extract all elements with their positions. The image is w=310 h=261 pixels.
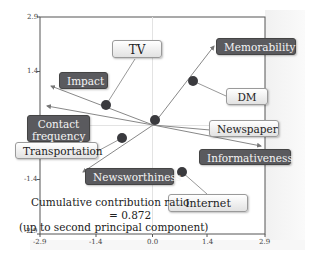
label-tv: TV [112, 40, 162, 58]
label-memorability: Memorability [216, 38, 296, 55]
label-dm: DM [226, 88, 268, 105]
y-tick-2.9: 2.9 [27, 13, 38, 21]
x-tick-neg2.9: -2.9 [33, 238, 47, 246]
label-transportation: Transportation [15, 142, 98, 159]
point-tv [101, 100, 111, 110]
point-transportation [117, 133, 127, 143]
y-tick-1.4: 1.4 [27, 67, 38, 75]
label-newsworthiness: Newsworthiness [85, 168, 174, 185]
note-line2: = 0.872 [109, 209, 151, 221]
label-informativeness: Informativeness [199, 149, 291, 165]
point-dm [188, 76, 198, 86]
label-impact: Impact [59, 72, 108, 89]
label-contact-frequency: Contact frequency [27, 115, 90, 142]
x-tick-1.4: 1.4 [202, 238, 213, 246]
note-line3: (up to second principal component) [19, 221, 208, 233]
note-line1: Cumulative contribution ratio [31, 196, 189, 208]
point-newspaper [150, 115, 160, 125]
x-tick-2.9: 2.9 [259, 238, 270, 246]
label-contact-line2: frequency [32, 130, 85, 142]
x-tick-neg1.4: -1.4 [89, 238, 103, 246]
x-tick-0: 0.0 [147, 238, 158, 246]
pca-biplot: 2.9 1.4 -1.4 -2.9 -2.9 -1.4 0.0 1.4 2.9 … [0, 0, 310, 261]
label-contact-line1: Contact [32, 118, 85, 130]
label-newspaper: Newspaper [209, 120, 279, 137]
y-tick-neg1.4: -1.4 [24, 175, 38, 183]
